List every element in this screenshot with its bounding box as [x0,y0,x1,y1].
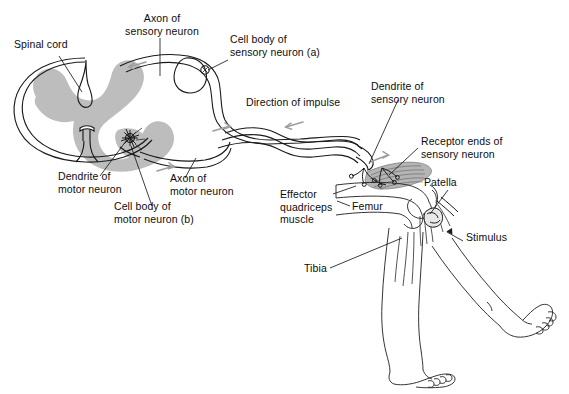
label-stimulus: Stimulus [466,231,507,244]
label-femur: Femur [352,200,383,213]
arrow-nerve-inbound [286,122,303,129]
leader-stimulus-arrow [447,232,463,241]
arrow-nerve-outbound [213,123,230,131]
label-axon-motor-neuron: Axon of motor neuron [170,172,234,197]
label-patella: Patella [424,176,457,189]
label-tibia: Tibia [304,262,327,275]
leader-dendrite-sensory [369,100,398,164]
leader-femur [337,201,350,206]
label-cell-body-motor-neuron: Cell body of motor neuron (b) [114,200,194,225]
label-spinal-cord: Spinal cord [14,38,68,51]
impulse-arrows [129,62,389,171]
label-axon-sensory-neuron: Axon of sensory neuron [114,12,210,37]
reflex-arc-figure: Spinal cord Axon of sensory neuron Cell … [0,0,569,394]
label-effector-quadriceps-muscle: Effector quadriceps muscle [280,188,332,226]
kicking-leg [432,238,556,337]
gray-matter-butterfly [33,60,174,172]
label-direction-of-impulse: Direction of impulse [246,96,340,109]
hanging-leg [382,228,455,388]
label-cell-body-sensory-neuron: Cell body of sensory neuron (a) [230,33,320,58]
leader-cell-body-sensory [208,60,228,70]
label-receptor-ends-sensory-neuron: Receptor ends of sensory neuron [421,135,503,160]
arrow-to-muscle [370,152,389,162]
leader-tibia [330,238,402,268]
leg-anatomy [336,182,556,387]
label-dendrite-motor-neuron: Dendrite of motor neuron [58,170,122,195]
label-dendrite-sensory-neuron: Dendrite of sensory neuron [371,80,445,105]
